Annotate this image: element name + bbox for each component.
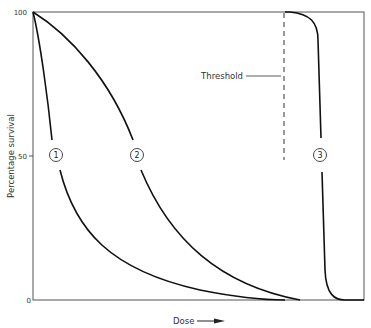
svg-text:3: 3 (317, 151, 322, 160)
y-axis-label: Percentage survival (6, 114, 16, 198)
y-tick-label-100: 100 (14, 9, 27, 17)
y-tick-label-50: 50 (18, 153, 27, 161)
x-axis-label: Dose (173, 316, 194, 326)
survival-chart: 100 50 0 Percentage survival Dose Thresh… (0, 0, 371, 328)
curve-1-marker: 1 (50, 149, 63, 162)
svg-text:2: 2 (134, 151, 139, 160)
curve-3-marker: 3 (314, 149, 327, 162)
threshold-label: Threshold (200, 71, 243, 81)
curve-3-upper (285, 12, 321, 138)
curve-2-upper (33, 12, 133, 140)
y-tick-label-0: 0 (27, 297, 31, 305)
arrow-right-icon (197, 319, 225, 324)
curve-1-lower (60, 170, 285, 300)
curve-1-upper (33, 12, 52, 140)
curve-3-lower (322, 172, 364, 300)
curve-2-marker: 2 (131, 149, 144, 162)
svg-text:1: 1 (53, 151, 58, 160)
